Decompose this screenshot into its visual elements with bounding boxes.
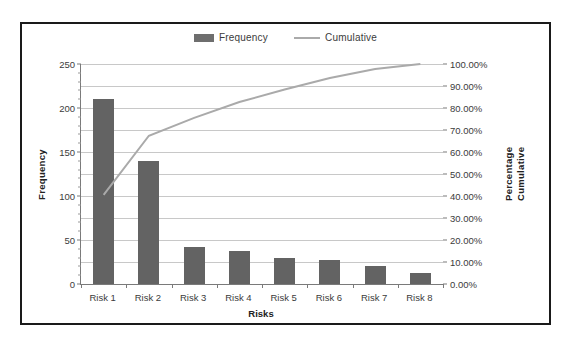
y2-tick-mark [443, 86, 447, 87]
bar-slot [126, 64, 171, 284]
y2-axis-title-text: Cumulative Percentage [503, 147, 527, 201]
y2-tick-mark [443, 218, 447, 219]
y2-tick-label: 0.00% [450, 279, 477, 290]
y2-tick-label: 80.00% [450, 103, 482, 114]
y2-tick-mark [443, 108, 447, 109]
y2-tick-mark [443, 130, 447, 131]
legend-entry-frequency: Frequency [194, 32, 268, 43]
y2-tick-label: 50.00% [450, 169, 482, 180]
y2-tick-mark [443, 240, 447, 241]
y-tick-label: 50 [64, 235, 75, 246]
y2-tick-label: 40.00% [450, 191, 482, 202]
y2-tick-label: 10.00% [450, 257, 482, 268]
x-tick-label: Risk 8 [397, 292, 442, 303]
bar [184, 247, 205, 284]
y-axis-title: Frequency [34, 64, 48, 284]
y2-tick-label: 20.00% [450, 235, 482, 246]
x-tick-mark [398, 284, 399, 288]
y-tick-label: 100 [59, 191, 75, 202]
y-tick-label: 250 [59, 59, 75, 70]
x-tick-label: Risk 4 [216, 292, 261, 303]
x-tick-mark [353, 284, 354, 288]
y-tick-label: 0 [70, 279, 75, 290]
x-tick-label: Risk 3 [171, 292, 216, 303]
bar [274, 258, 295, 284]
x-tick-mark [217, 284, 218, 288]
y2-tick-label: 100.00% [450, 59, 488, 70]
y-axis-title-text: Frequency [36, 149, 47, 200]
bar-series-frequency [81, 64, 443, 284]
bar-slot [81, 64, 126, 284]
y2-tick-mark [443, 196, 447, 197]
y2-tick-mark [443, 262, 447, 263]
x-tick-mark [307, 284, 308, 288]
bar-slot [398, 64, 443, 284]
bar-swatch-icon [194, 34, 214, 42]
x-axis-title: Risks [80, 308, 442, 319]
x-tick-mark [81, 284, 82, 288]
y2-tick-mark [443, 152, 447, 153]
bar [410, 273, 431, 284]
y2-tick-mark [443, 64, 447, 65]
pareto-chart-frame: Frequency Cumulative Frequency Cumulativ… [20, 22, 551, 325]
bar-slot [353, 64, 398, 284]
legend-label-frequency: Frequency [219, 32, 268, 43]
x-tick-label: Risk 6 [306, 292, 351, 303]
bar [138, 161, 159, 284]
chart-legend: Frequency Cumulative [22, 32, 549, 43]
bar [365, 266, 386, 284]
bar-slot [172, 64, 217, 284]
x-tick-label: Risk 7 [352, 292, 397, 303]
y2-tick-label: 30.00% [450, 213, 482, 224]
x-tick-label: Risk 2 [125, 292, 170, 303]
y2-axis-title-line2: Percentage [503, 147, 515, 201]
y2-axis-title-line1: Cumulative [515, 147, 527, 201]
bar-slot [307, 64, 352, 284]
legend-label-cumulative: Cumulative [325, 32, 377, 43]
x-tick-mark [126, 284, 127, 288]
bar [229, 251, 250, 284]
y2-axis-title: Cumulative Percentage [500, 64, 530, 284]
y2-tick-label: 60.00% [450, 147, 482, 158]
x-tick-mark [172, 284, 173, 288]
screenshot-canvas: Frequency Cumulative Frequency Cumulativ… [0, 0, 572, 344]
y-tick-label: 150 [59, 147, 75, 158]
y2-tick-mark [443, 174, 447, 175]
x-tick-mark [443, 284, 444, 288]
x-tick-label: Risk 5 [261, 292, 306, 303]
x-tick-label: Risk 1 [80, 292, 125, 303]
y2-tick-label: 90.00% [450, 81, 482, 92]
y2-tick-label: 70.00% [450, 125, 482, 136]
bar-slot [262, 64, 307, 284]
line-swatch-icon [294, 37, 320, 39]
x-axis-labels: Risk 1Risk 2Risk 3Risk 4Risk 5Risk 6Risk… [80, 292, 442, 303]
bar [319, 260, 340, 284]
plot-area: 050100150200250 0.00%10.00%20.00%30.00%4… [80, 64, 443, 285]
x-tick-mark [262, 284, 263, 288]
legend-entry-cumulative: Cumulative [294, 32, 377, 43]
bar-slot [217, 64, 262, 284]
bar [93, 99, 114, 284]
y-tick-label: 200 [59, 103, 75, 114]
